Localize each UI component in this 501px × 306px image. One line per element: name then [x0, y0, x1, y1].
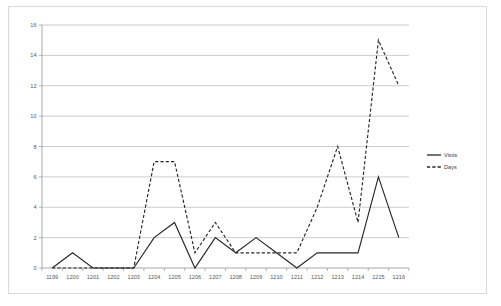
x-axis-tick-label: 1205	[168, 274, 180, 280]
series-line-days	[52, 40, 399, 268]
chart-legend: VisitsDays	[427, 152, 457, 170]
y-axis-tick-label: 8	[33, 144, 36, 150]
x-axis-tick-label: 1215	[372, 274, 384, 280]
y-axis-tick-label: 0	[33, 265, 36, 271]
x-axis-tick-label: 1202	[107, 274, 119, 280]
x-axis-tick-label: 1204	[148, 274, 160, 280]
chart-plot-area: 0246810121416 11991200120112021203120412…	[9, 7, 488, 295]
x-axis-tick-label: 1216	[393, 274, 405, 280]
x-axis-tick-label: 1211	[291, 274, 303, 280]
x-axis-tick-label: 1200	[66, 274, 78, 280]
chart-frame: 0246810121416 11991200120112021203120412…	[8, 6, 487, 294]
legend-label-visits: Visits	[444, 152, 457, 158]
x-axis-tick-label: 1207	[209, 274, 221, 280]
y-axis-tick-label: 14	[30, 52, 36, 58]
y-axis-tick-label: 16	[30, 22, 36, 28]
y-axis-tick-label: 10	[30, 113, 36, 119]
y-axis-tick-label: 2	[33, 235, 36, 241]
legend-label-days: Days	[444, 164, 457, 170]
y-axis-tick-label: 6	[33, 174, 36, 180]
x-axis-tick-label: 1213	[331, 274, 343, 280]
x-axis-labels-group: 1199120012011202120312041205120612071208…	[46, 274, 405, 280]
data-series-group	[52, 40, 399, 268]
x-axis-tick-label: 1210	[270, 274, 282, 280]
gridlines-group	[42, 25, 409, 268]
x-axis-tick-label: 1209	[250, 274, 262, 280]
x-axis-tick-label: 1208	[229, 274, 241, 280]
x-axis-tick-label: 1212	[311, 274, 323, 280]
x-axis-tick-label: 1199	[46, 274, 58, 280]
series-line-visits	[52, 177, 399, 268]
x-axis-tick-label: 1206	[189, 274, 201, 280]
y-axis-tick-label: 4	[33, 204, 36, 210]
y-axis-labels-group: 0246810121416	[30, 22, 36, 271]
x-axis-tick-label: 1214	[352, 274, 364, 280]
x-axis-group	[42, 25, 409, 271]
line-chart: 0246810121416 11991200120112021203120412…	[9, 7, 488, 295]
y-axis-tick-label: 12	[30, 83, 36, 89]
x-axis-tick-label: 1203	[128, 274, 140, 280]
x-axis-tick-label: 1201	[87, 274, 99, 280]
